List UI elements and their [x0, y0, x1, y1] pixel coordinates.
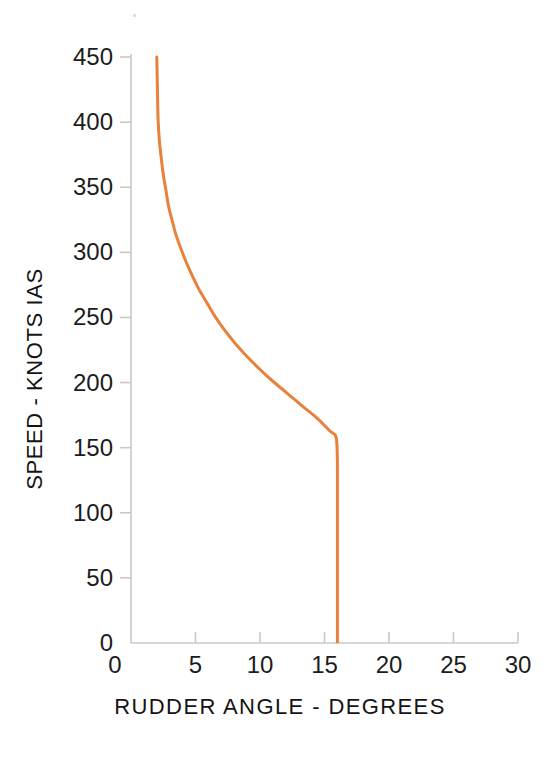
y-tick-label: 100	[73, 501, 113, 525]
axes-group	[131, 54, 518, 643]
tick-marks-group	[120, 57, 518, 643]
data-series-group	[157, 57, 338, 643]
y-tick-label: 150	[73, 436, 113, 460]
x-tick-label: 0	[108, 653, 121, 677]
y-tick-label: 50	[86, 566, 113, 590]
chart-container: 050100150200250300350400450 051015202530…	[0, 0, 560, 757]
y-tick-label: 450	[73, 45, 113, 69]
plot-area: 050100150200250300350400450 051015202530	[0, 0, 560, 757]
x-tick-label: 25	[440, 653, 467, 677]
x-tick-label: 10	[247, 653, 274, 677]
x-tick-label: 5	[189, 653, 202, 677]
x-tick-label: 30	[505, 653, 532, 677]
y-tick-label: 250	[73, 305, 113, 329]
series-line-0	[157, 57, 338, 461]
x-tick-label: 15	[311, 653, 338, 677]
y-tick-label: 400	[73, 110, 113, 134]
x-axis-title: RUDDER ANGLE - DEGREES	[0, 694, 560, 720]
y-tick-label: 350	[73, 175, 113, 199]
x-tick-label: 20	[376, 653, 403, 677]
y-tick-label: 300	[73, 240, 113, 264]
y-tick-label: 200	[73, 371, 113, 395]
